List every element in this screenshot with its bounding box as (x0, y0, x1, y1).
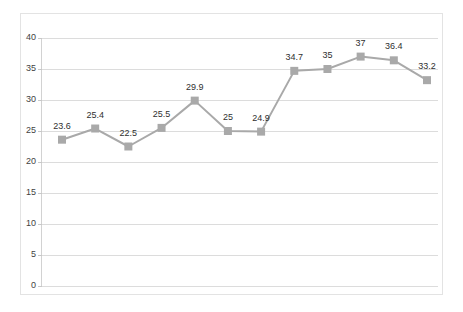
data-point-label: 36.4 (374, 42, 414, 51)
data-point-label: 23.6 (42, 122, 82, 131)
data-point-marker (91, 125, 99, 133)
data-point-label: 29.9 (175, 83, 215, 92)
data-point-marker (290, 67, 298, 75)
y-axis-tick (38, 162, 42, 163)
data-point-marker (423, 76, 431, 84)
data-point-label: 35 (307, 51, 347, 60)
data-point-marker (224, 127, 232, 135)
data-point-label: 33.2 (407, 62, 447, 71)
y-axis-tick (38, 193, 42, 194)
y-axis-tick (38, 100, 42, 101)
data-point-label: 22.5 (108, 129, 148, 138)
data-point-label: 24.9 (241, 114, 281, 123)
data-point-marker (257, 128, 265, 136)
data-point-marker (124, 143, 132, 151)
data-point-marker (323, 65, 331, 73)
data-point-marker (191, 97, 199, 105)
y-axis-tick (38, 224, 42, 225)
y-axis-tick (38, 38, 42, 39)
data-point-label: 25.5 (142, 110, 182, 119)
data-point-marker (58, 136, 66, 144)
data-point-marker (158, 124, 166, 132)
data-point-label: 25.4 (75, 111, 115, 120)
y-axis-tick (38, 69, 42, 70)
chart-container: 0510152025303540 23.625.422.525.529.9252… (0, 0, 463, 312)
y-axis-tick (38, 131, 42, 132)
data-point-marker (390, 56, 398, 64)
y-axis-tick (38, 286, 42, 287)
y-axis-tick (38, 255, 42, 256)
data-point-marker (357, 53, 365, 61)
